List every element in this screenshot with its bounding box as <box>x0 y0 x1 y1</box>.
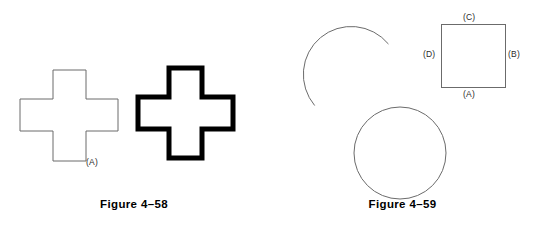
figure-4-59-label-d: (D) <box>423 49 435 59</box>
thin-cross-shape <box>20 70 118 161</box>
open-arc-shape <box>303 26 388 105</box>
square-shape <box>442 25 506 88</box>
figure-4-58-caption: Figure 4–58 <box>0 198 268 210</box>
figure-page: (A) Figure 4–58 (C) (D) (B) (A) Figure 4… <box>0 0 537 225</box>
full-circle-shape <box>354 107 446 199</box>
figure-4-59-label-a: (A) <box>463 89 475 99</box>
figure-4-58-graphic <box>0 0 268 225</box>
figure-4-59-graphic <box>268 0 537 225</box>
figure-4-59-caption: Figure 4–59 <box>268 198 537 210</box>
figure-4-59-label-c: (C) <box>463 12 475 22</box>
figure-4-59-panel: (C) (D) (B) (A) Figure 4–59 <box>268 0 537 225</box>
figure-4-58-panel: (A) Figure 4–58 <box>0 0 268 225</box>
figure-4-58-label-a: (A) <box>86 157 98 167</box>
bold-cross-shape <box>138 68 233 158</box>
figure-4-59-label-b: (B) <box>508 49 520 59</box>
